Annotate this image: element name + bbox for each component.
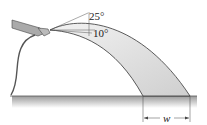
- hose-tail: [11, 35, 35, 95]
- dim-arrow-right: [185, 117, 189, 120]
- ground-shadow: [12, 96, 197, 108]
- dim-arrow-left: [144, 117, 148, 120]
- angle-label-25: 25°: [89, 11, 104, 22]
- angle-label-10: 10°: [93, 28, 108, 39]
- dimension-label-w: w: [163, 113, 170, 124]
- water-stream: [50, 23, 190, 96]
